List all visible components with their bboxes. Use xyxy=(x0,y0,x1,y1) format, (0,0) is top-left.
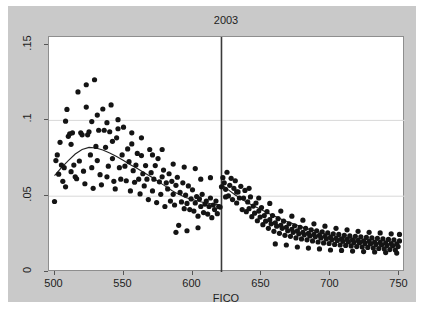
data-point xyxy=(129,141,134,146)
data-point xyxy=(215,211,220,216)
data-point xyxy=(84,82,89,87)
chart-title: 2003 xyxy=(214,14,238,26)
data-point xyxy=(195,214,200,219)
data-point xyxy=(132,180,137,185)
data-point xyxy=(104,174,109,179)
data-point xyxy=(180,180,185,185)
data-point xyxy=(222,180,227,185)
data-point xyxy=(92,77,97,82)
y-tick-label: .15 xyxy=(21,30,33,56)
data-point xyxy=(137,191,142,196)
data-point xyxy=(397,238,402,243)
data-point xyxy=(55,152,60,157)
data-point xyxy=(182,206,187,211)
data-point xyxy=(213,198,218,203)
data-point xyxy=(63,184,68,189)
data-point xyxy=(64,107,69,112)
data-point xyxy=(298,225,303,230)
data-point xyxy=(157,179,162,184)
data-point xyxy=(140,171,145,176)
data-point xyxy=(328,247,333,252)
y-tick-label: .05 xyxy=(21,181,33,207)
data-point xyxy=(220,175,225,180)
x-tick-mark xyxy=(329,271,330,275)
data-point xyxy=(306,245,311,250)
data-point xyxy=(314,228,319,233)
data-point xyxy=(142,183,147,188)
data-point xyxy=(96,128,101,133)
data-point xyxy=(224,170,229,175)
data-point xyxy=(99,182,104,187)
data-point xyxy=(191,208,196,213)
data-point xyxy=(289,214,294,219)
data-point xyxy=(60,179,65,184)
data-point xyxy=(277,231,282,236)
data-point xyxy=(100,106,105,111)
data-point xyxy=(146,197,151,202)
data-point xyxy=(108,102,113,107)
data-point xyxy=(104,120,109,125)
data-point xyxy=(150,152,155,157)
y-tick-mark xyxy=(44,195,48,196)
data-point xyxy=(175,175,180,180)
data-point xyxy=(74,176,79,181)
data-point xyxy=(102,128,107,133)
data-point xyxy=(88,152,93,157)
data-point xyxy=(128,188,133,193)
data-point xyxy=(161,168,166,173)
data-point xyxy=(106,164,111,169)
x-tick-label: 700 xyxy=(320,277,338,289)
data-point xyxy=(273,241,278,246)
data-point xyxy=(233,178,238,183)
data-point xyxy=(97,172,102,177)
data-point xyxy=(282,233,287,238)
data-point xyxy=(171,192,176,197)
data-point xyxy=(120,152,125,157)
x-tick-label: 600 xyxy=(182,277,200,289)
data-point xyxy=(259,205,264,210)
x-axis-label: FICO xyxy=(213,292,239,304)
data-point xyxy=(95,158,100,163)
x-tick-mark xyxy=(398,271,399,275)
y-tick-mark xyxy=(44,119,48,120)
data-point xyxy=(144,177,149,182)
x-tick-label: 750 xyxy=(389,277,407,289)
data-point xyxy=(197,196,202,201)
data-point xyxy=(155,156,160,161)
data-point xyxy=(300,218,305,223)
data-point xyxy=(281,219,286,224)
data-point xyxy=(256,195,261,200)
data-point xyxy=(122,164,127,169)
data-point xyxy=(278,208,283,213)
data-point xyxy=(172,202,177,207)
data-point xyxy=(223,187,228,192)
data-point xyxy=(193,200,198,205)
data-point xyxy=(295,244,300,249)
y-tick-mark xyxy=(44,44,48,45)
data-point xyxy=(150,188,155,193)
data-point xyxy=(275,216,280,221)
data-point xyxy=(284,242,289,247)
data-point xyxy=(56,172,61,177)
x-tick-mark xyxy=(260,271,261,275)
data-point xyxy=(264,209,269,214)
data-point xyxy=(253,200,258,205)
data-point xyxy=(169,179,174,184)
data-point xyxy=(133,163,138,168)
data-point xyxy=(325,230,330,235)
data-point xyxy=(171,161,176,166)
y-tick-label: 0 xyxy=(21,257,33,283)
data-point xyxy=(198,177,203,182)
data-point xyxy=(165,186,170,191)
y-tick-label: .1 xyxy=(21,105,33,131)
data-point xyxy=(186,183,191,188)
data-point xyxy=(383,250,388,255)
data-point xyxy=(246,186,251,191)
data-point xyxy=(173,183,178,188)
data-point xyxy=(70,130,75,135)
data-point xyxy=(322,224,327,229)
data-point xyxy=(372,249,377,254)
data-point xyxy=(139,135,144,140)
data-point xyxy=(208,175,213,180)
plot-svg xyxy=(49,37,405,272)
